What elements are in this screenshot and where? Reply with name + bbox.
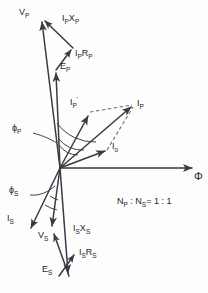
angle-arc-phi-p-outer — [57, 123, 96, 142]
leader-phi-p — [33, 133, 57, 143]
construction-io-to-ip — [107, 107, 133, 150]
label-v-s: VS — [38, 231, 48, 242]
phasor-canvas — [0, 0, 208, 293]
label-turns-ratio: NP : NS= 1 : 1 — [117, 196, 171, 208]
label-phi-p: ϕP — [12, 124, 21, 135]
label-phi-s: ϕS — [9, 186, 18, 197]
label-flux-axis: Φ — [194, 170, 203, 182]
label-i-p-prime: IP′ — [70, 96, 78, 109]
label-i-p: IP — [137, 99, 144, 110]
label-is-xs: ISXS — [73, 224, 90, 235]
label-ip-rp: IPRP — [75, 49, 93, 60]
label-i-o: Io — [112, 142, 118, 153]
phasor-diagram-figure: VP IPXP IPRP EP IP′ IP Io ϕP ϕS IS VS IS… — [0, 0, 208, 293]
phasor-e-s — [60, 168, 68, 273]
label-e-s: ES — [42, 265, 52, 276]
phasor-i-o — [60, 151, 105, 168]
label-e-p: EP — [60, 62, 70, 73]
label-is-rs: ISRS — [79, 248, 97, 259]
label-ip-xp: IPXP — [62, 14, 79, 25]
label-v-p: VP — [19, 8, 29, 19]
label-i-s: IS — [7, 214, 14, 225]
phasor-i-p — [60, 107, 131, 168]
phasor-i-p-prime — [60, 116, 88, 168]
